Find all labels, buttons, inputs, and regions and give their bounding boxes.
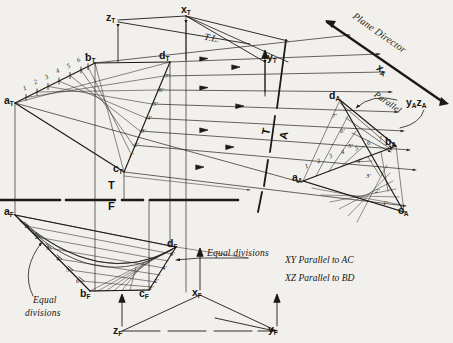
front-director-triangle: [122, 295, 277, 331]
auxiliary-view-generators-reverse: [303, 165, 404, 222]
label-z-sub-T: zT: [106, 12, 115, 23]
label-a-sub-T: aT: [4, 95, 14, 106]
top-div-dc-5: 5': [153, 101, 158, 108]
front-div-ab-5: 5: [66, 267, 69, 274]
label-c-sub-A: cA: [398, 205, 409, 216]
tf-label-bottom: F: [108, 201, 115, 212]
front-div-dc-2: 2': [154, 278, 159, 285]
aux-div-dc-4: 4': [357, 158, 362, 165]
aux-div-dc-3: 3': [366, 173, 371, 180]
front-div-dc-4: 4': [162, 265, 167, 272]
equal-divisions-left-line2: divisions: [25, 309, 61, 319]
aux-div-dc-5: 5': [348, 143, 353, 150]
equal-divisions-left-line1: Equal: [33, 296, 57, 306]
top-div-dc-4: 4': [147, 115, 152, 122]
front-view-generators: [15, 215, 176, 291]
label-d-sub-F: dF: [167, 238, 177, 249]
front-div-dc-1: 1': [149, 285, 154, 292]
label-d-sub-T: dT: [159, 50, 169, 61]
label-z-sub-F: zF: [113, 325, 122, 336]
aux-div-dc-2: 2': [375, 188, 380, 195]
label-x-sub-F: xF: [192, 287, 202, 298]
front-div-dc-6: 6': [170, 251, 175, 258]
label-yz-sub-A: yAzA: [406, 97, 427, 108]
front-div-ab-3: 3: [46, 245, 49, 252]
label-c-sub-F: cF: [139, 288, 149, 299]
aux-div-dc-1: 1': [383, 200, 388, 207]
drawing-canvas: aT bT dT cT zT xT yT 1 2 3 4 5 6 7 7' 6'…: [0, 0, 453, 343]
label-b-sub-A: bA: [385, 136, 396, 147]
front-div-ab-2: 2: [35, 234, 38, 241]
label-y-sub-T: yT: [267, 52, 277, 63]
label-y-sub-F: yF: [268, 324, 278, 335]
top-div-dc-3: 3': [141, 128, 146, 135]
aux-div-dc-6: 6': [340, 128, 345, 135]
equal-divisions-right: Equal divisions: [207, 249, 269, 259]
front-div-ab-6: 6: [76, 278, 79, 285]
label-b-sub-F: bF: [80, 288, 90, 299]
top-div-dc-7: 7': [165, 73, 170, 80]
top-div-dc-1: 1': [129, 152, 134, 159]
tf-label-top: T: [108, 180, 115, 191]
label-a-sub-F: aF: [4, 206, 14, 217]
front-view-band-lines: [124, 176, 250, 258]
aux-div-dc-7: 7': [332, 113, 337, 120]
top-director-verticals: [118, 24, 265, 96]
top-div-dc-6: 6': [159, 87, 164, 94]
label-c-sub-T: cT: [113, 163, 123, 174]
front-div-ab-4: 4: [56, 256, 59, 263]
auxiliary-projectors: [15, 35, 416, 206]
front-div-ab-1: 1: [24, 223, 27, 230]
note-xy-parallel-ac: XY Parallel to AC: [285, 256, 354, 266]
front-view-outline: [15, 215, 176, 291]
top-div-dc-2: 2': [134, 142, 139, 149]
label-x-sub-T: xT: [181, 4, 191, 15]
label-a-sub-A: aA: [292, 172, 303, 183]
note-xz-parallel-bd: XZ Parallel to BD: [285, 274, 354, 284]
label-d-sub-A: dA: [329, 90, 340, 101]
front-view-envelope-curves: [15, 215, 176, 267]
equal-divisions-left-leader: [28, 242, 42, 296]
engineering-drawing-svg: [0, 0, 453, 343]
